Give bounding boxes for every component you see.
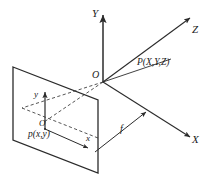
- perspective-projection-figure: Y Z X O P(X,Y,Z) y x O p(x,y) f: [0, 0, 213, 191]
- world-z-axis: [103, 18, 190, 82]
- world-x-axis: [103, 82, 190, 137]
- image-origin-label: O: [39, 119, 46, 128]
- world-z-axis-label: Z: [192, 24, 198, 35]
- world-y-axis-label: Y: [92, 8, 98, 19]
- world-origin-label: O: [92, 70, 99, 80]
- image-plane: [13, 67, 98, 173]
- diagram-canvas: [0, 0, 213, 191]
- world-axes: [103, 15, 190, 137]
- image-plane-outline: [13, 67, 98, 173]
- image-x-axis-label: x: [86, 134, 90, 143]
- world-x-axis-label: X: [192, 134, 199, 145]
- image-point-label: p(x,y): [28, 130, 50, 140]
- world-point-label: P(X,Y,Z): [137, 58, 169, 68]
- image-y-axis-label: y: [34, 90, 38, 99]
- focal-length-label: f: [120, 124, 123, 134]
